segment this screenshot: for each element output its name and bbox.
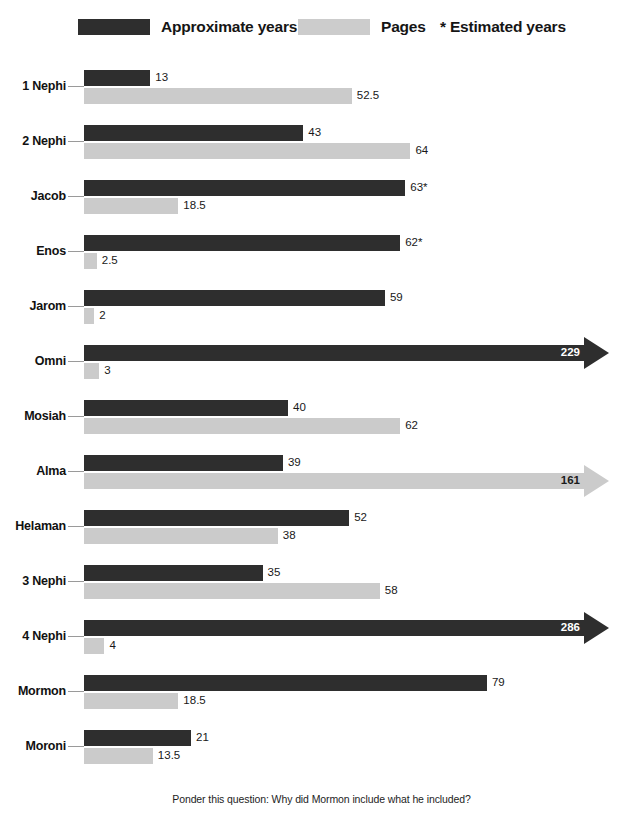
chart-plot-area: 1 Nephi1352.52 Nephi4364Jacob63*18.5Enos… xyxy=(0,58,643,773)
bar-rect-years xyxy=(84,510,349,526)
bar-group: 63*18.5 xyxy=(84,168,643,223)
bar-years: 59 xyxy=(84,290,403,306)
bar-arrowhead-icon xyxy=(584,337,609,369)
bar-pages: 18.5 xyxy=(84,198,206,214)
chart-row: 2 Nephi4364 xyxy=(0,113,643,168)
category-label: 2 Nephi xyxy=(0,134,66,148)
bar-value-label: 3 xyxy=(104,365,110,377)
bar-pages: 38 xyxy=(84,528,296,544)
bar-pages: 13.5 xyxy=(84,748,180,764)
bar-pages: 161 xyxy=(84,473,609,489)
bar-group: 39161 xyxy=(84,443,643,498)
bar-years: 43 xyxy=(84,125,321,141)
bar-rect-pages xyxy=(84,143,410,159)
category-label: Moroni xyxy=(0,739,66,753)
bar-group: 2113.5 xyxy=(84,718,643,773)
category-label: 1 Nephi xyxy=(0,79,66,93)
bar-rect-pages xyxy=(84,583,380,599)
bar-arrowhead-icon xyxy=(584,465,609,497)
bar-rect-pages xyxy=(84,693,178,709)
bar-years: 62* xyxy=(84,235,422,251)
bar-rect-years: 286 xyxy=(84,620,584,636)
bar-pages: 52.5 xyxy=(84,88,379,104)
category-label: Jarom xyxy=(0,299,66,313)
bar-value-label: 161 xyxy=(561,475,580,487)
bar-value-label: 229 xyxy=(561,347,580,359)
footer-note: Ponder this question: Why did Mormon inc… xyxy=(0,793,643,805)
axis-tick xyxy=(68,636,84,637)
bar-years: 13 xyxy=(84,70,168,86)
category-label: 3 Nephi xyxy=(0,574,66,588)
bar-value-label: 52 xyxy=(354,512,367,524)
bar-rect-pages xyxy=(84,638,104,654)
bar-pages: 18.5 xyxy=(84,693,206,709)
axis-tick xyxy=(68,746,84,747)
bar-value-label: 2 xyxy=(99,310,105,322)
axis-tick xyxy=(68,196,84,197)
bar-group: 592 xyxy=(84,278,643,333)
axis-tick xyxy=(68,691,84,692)
category-label: Omni xyxy=(0,354,66,368)
bar-group: 7918.5 xyxy=(84,663,643,718)
bar-value-label: 18.5 xyxy=(183,695,205,707)
bar-rect-years xyxy=(84,675,487,691)
axis-tick xyxy=(68,86,84,87)
chart-row: Omni2293 xyxy=(0,333,643,388)
bar-years: 63* xyxy=(84,180,428,196)
axis-tick xyxy=(68,581,84,582)
bar-pages: 4 xyxy=(84,638,116,654)
bar-group: 2293 xyxy=(84,333,643,388)
chart-row: 1 Nephi1352.5 xyxy=(0,58,643,113)
axis-tick xyxy=(68,416,84,417)
bar-group: 5238 xyxy=(84,498,643,553)
bar-pages: 2.5 xyxy=(84,253,118,269)
chart-row: Alma39161 xyxy=(0,443,643,498)
bar-value-label: 43 xyxy=(308,127,321,139)
bar-value-label: 62* xyxy=(405,237,422,249)
chart-row: Mormon7918.5 xyxy=(0,663,643,718)
bar-group: 1352.5 xyxy=(84,58,643,113)
bar-value-label: 58 xyxy=(385,585,398,597)
bar-value-label: 64 xyxy=(415,145,428,157)
bar-value-label: 40 xyxy=(293,402,306,414)
axis-tick xyxy=(68,141,84,142)
chart-row: Enos62*2.5 xyxy=(0,223,643,278)
bar-value-label: 52.5 xyxy=(357,90,379,102)
bar-value-label: 38 xyxy=(283,530,296,542)
bar-rect-pages xyxy=(84,748,153,764)
legend-label-pages: Pages xyxy=(381,18,426,36)
bar-value-label: 35 xyxy=(268,567,281,579)
bar-years: 21 xyxy=(84,730,209,746)
bar-group: 3558 xyxy=(84,553,643,608)
bar-rect-years xyxy=(84,400,288,416)
legend-item-approximate-years: Approximate years xyxy=(78,16,297,38)
chart-row: 4 Nephi2864 xyxy=(0,608,643,663)
axis-tick xyxy=(68,251,84,252)
bar-rect-years xyxy=(84,235,400,251)
bar-rect-years xyxy=(84,565,263,581)
legend-item-estimated-note: * Estimated years xyxy=(440,16,566,38)
bar-pages: 62 xyxy=(84,418,418,434)
bar-years: 79 xyxy=(84,675,505,691)
bar-rect-years xyxy=(84,70,150,86)
legend-label-estimated-note: * Estimated years xyxy=(440,18,566,36)
chart-row: Jacob63*18.5 xyxy=(0,168,643,223)
bar-rect-years xyxy=(84,290,385,306)
bar-rect-pages xyxy=(84,253,97,269)
bar-years: 39 xyxy=(84,455,301,471)
chart-row: 3 Nephi3558 xyxy=(0,553,643,608)
bar-value-label: 21 xyxy=(196,732,209,744)
bar-rect-pages xyxy=(84,528,278,544)
bar-group: 4364 xyxy=(84,113,643,168)
bar-value-label: 13 xyxy=(155,72,168,84)
chart-row: Jarom592 xyxy=(0,278,643,333)
legend-swatch-pages xyxy=(298,19,370,35)
bar-rect-pages xyxy=(84,198,178,214)
bar-rect-pages xyxy=(84,418,400,434)
category-label: Helaman xyxy=(0,519,66,533)
bar-rect-years xyxy=(84,125,303,141)
category-label: Mosiah xyxy=(0,409,66,423)
bar-value-label: 62 xyxy=(405,420,418,432)
legend-swatch-years xyxy=(78,19,150,35)
bar-years: 35 xyxy=(84,565,280,581)
